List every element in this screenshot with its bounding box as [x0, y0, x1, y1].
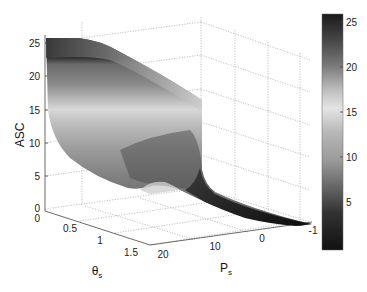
- x-tick: 1.5: [124, 247, 138, 258]
- y-tick: 20: [157, 249, 169, 260]
- y-tick: 0: [259, 233, 265, 244]
- y-tick: 10: [209, 241, 221, 252]
- x-tick: 0: [34, 213, 40, 224]
- x-axis-label: θs: [92, 264, 103, 280]
- z-tick: 5: [34, 171, 40, 182]
- x-tick: 1: [97, 235, 103, 246]
- z-tick: 20: [29, 71, 41, 82]
- y-tick: -1: [309, 225, 318, 236]
- z-tick: 25: [29, 38, 41, 49]
- colorbar-tick: 15: [346, 107, 358, 118]
- y-axis-label: Ps: [220, 261, 232, 277]
- z-tick: 10: [29, 138, 41, 149]
- surface-plot: 25 20 15 10 5 0 ASC 0 0.5 1 1.5 θs 20 10…: [0, 0, 367, 292]
- colorbar-tick: 20: [346, 62, 358, 73]
- x-tick: 0.5: [63, 223, 77, 234]
- surface: [46, 38, 312, 226]
- z-axis-label: ASC: [13, 122, 27, 147]
- colorbar-tick: 5: [346, 197, 352, 208]
- colorbar-tick: 10: [346, 152, 358, 163]
- y-tick-labels: 20 10 0 -1: [157, 225, 317, 260]
- z-tick-labels: 25 20 15 10 5 0: [29, 38, 41, 214]
- z-tick: 15: [29, 105, 41, 116]
- colorbar: 25 20 15 10 5: [322, 14, 358, 250]
- colorbar-tick: 25: [346, 17, 358, 28]
- x-tick-labels: 0 0.5 1 1.5: [34, 213, 138, 258]
